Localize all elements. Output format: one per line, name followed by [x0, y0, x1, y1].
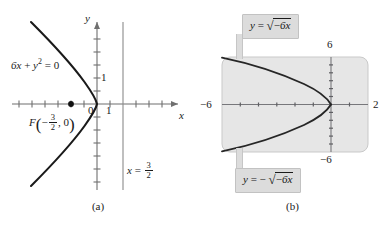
- equation-label-a: 6x + y2 = 0: [11, 60, 59, 71]
- window-label-left: −6: [200, 98, 212, 110]
- window-label-top: 6: [327, 38, 333, 50]
- x-axis-label: x: [179, 110, 184, 121]
- panel-b: −6 2 6 −6 y = √−6x y = − √−6x (b): [196, 0, 389, 227]
- directrix-label: x = 32: [127, 161, 154, 179]
- callout-upper-equation: y = √−6x: [242, 14, 299, 39]
- panel-a-graph: [0, 0, 196, 200]
- window-label-right: 2: [373, 98, 379, 110]
- origin-tick-label: 0: [88, 105, 94, 116]
- callout-lower-equation: y = − √−6x: [235, 168, 301, 193]
- x-axis: [12, 101, 178, 107]
- focus-label: F(−32, 0): [29, 113, 75, 131]
- window-label-bottom: −6: [320, 153, 332, 165]
- x-one-tick-label: 1: [106, 105, 112, 116]
- caption-b: (b): [196, 200, 389, 212]
- y-axis-label: y: [85, 13, 90, 24]
- figure-container: 6x + y2 = 0 F(−32, 0) x = 32 y x 0 1 1 (…: [0, 0, 389, 227]
- y-one-tick-label: 1: [101, 72, 107, 83]
- caption-a: (a): [0, 200, 196, 212]
- panel-a: 6x + y2 = 0 F(−32, 0) x = 32 y x 0 1 1 (…: [0, 0, 196, 227]
- focus-point: [68, 101, 74, 107]
